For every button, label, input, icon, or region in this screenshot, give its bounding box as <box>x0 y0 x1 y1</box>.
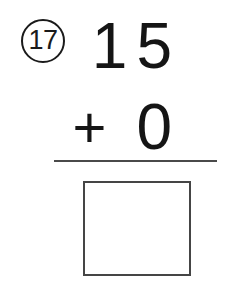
second-addend-row: + 0 <box>0 101 226 153</box>
answer-input-box[interactable] <box>83 181 191 276</box>
second-addend-value: 0 <box>136 102 181 152</box>
first-addend-value: 15 <box>92 21 181 71</box>
addition-problem-card: 17 15 + 0 <box>0 0 226 291</box>
first-addend-row: 15 <box>0 20 226 72</box>
plus-operator-icon: + <box>73 102 107 152</box>
sum-rule-divider <box>54 160 217 162</box>
